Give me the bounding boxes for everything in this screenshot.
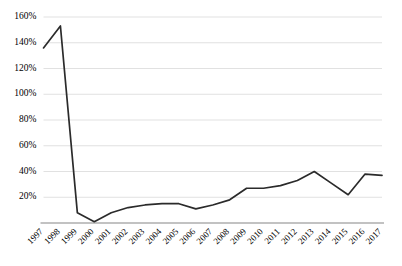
y-tick-label: 40% xyxy=(19,166,37,176)
line-chart: 20%40%60%80%100%120%140%160% 19971998199… xyxy=(0,0,402,266)
y-tick-label: 160% xyxy=(14,11,36,21)
y-tick-label: 100% xyxy=(14,88,36,98)
chart-canvas: 20%40%60%80%100%120%140%160% 19971998199… xyxy=(0,0,402,266)
y-tick-label: 60% xyxy=(19,140,37,150)
y-tick-label: 80% xyxy=(19,114,37,124)
y-tick-label: 120% xyxy=(14,63,36,73)
y-tick-label: 140% xyxy=(14,37,36,47)
y-tick-label: 20% xyxy=(19,191,37,201)
